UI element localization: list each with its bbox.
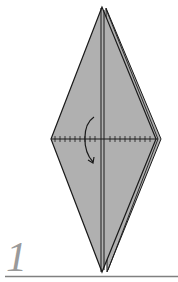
step-number: 1 (6, 236, 27, 278)
